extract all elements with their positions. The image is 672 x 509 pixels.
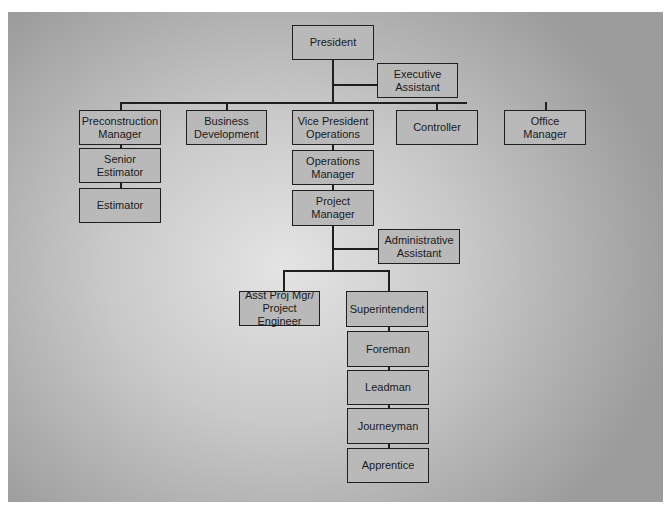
node-asst-proj-mgr: Asst Proj Mgr/ Project Engineer (239, 291, 320, 326)
node-administrative-assistant: Administrative Assistant (378, 229, 460, 264)
connector (332, 84, 377, 86)
node-vp-operations: Vice President Operations (292, 110, 374, 145)
node-operations-manager: Operations Manager (292, 150, 374, 185)
connector (120, 102, 467, 104)
node-foreman: Foreman (347, 331, 429, 367)
connector (332, 59, 334, 102)
node-preconstruction-manager: Preconstruction Manager (79, 110, 161, 145)
node-leadman: Leadman (347, 370, 429, 405)
node-business-development: Business Development (186, 110, 267, 145)
node-project-manager: Project Manager (292, 190, 374, 226)
node-senior-estimator: Senior Estimator (79, 148, 161, 183)
node-superintendent: Superintendent (346, 291, 428, 327)
node-office-manager: Office Manager (504, 110, 586, 145)
node-journeyman: Journeyman (347, 408, 429, 444)
node-executive-assistant: Executive Assistant (377, 63, 458, 98)
connector (283, 270, 389, 272)
node-controller: Controller (396, 110, 478, 145)
connector (332, 248, 378, 250)
node-apprentice: Apprentice (347, 448, 429, 483)
org-chart-panel (8, 12, 663, 502)
connector (388, 270, 390, 292)
node-president: President (292, 25, 374, 60)
node-estimator: Estimator (79, 188, 161, 223)
